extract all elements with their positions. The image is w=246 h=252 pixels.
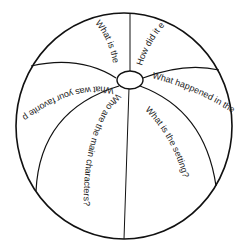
- seam-bottom: [124, 88, 129, 239]
- beach-ball-diagram: What is the How did it e What was your f…: [0, 0, 246, 252]
- seam-right-lower: [140, 86, 216, 186]
- question-bottom-right: What is the setting?: [144, 104, 191, 178]
- question-top-left: What is the: [94, 18, 122, 64]
- ball-outline: [16, 13, 232, 239]
- seam-left-upper: [31, 62, 116, 78]
- question-right: What happened in the: [152, 70, 237, 114]
- center-oval: [117, 71, 143, 89]
- question-bottom-left: Who are the main characters?: [82, 92, 123, 206]
- question-top-right: How did it e: [134, 20, 166, 67]
